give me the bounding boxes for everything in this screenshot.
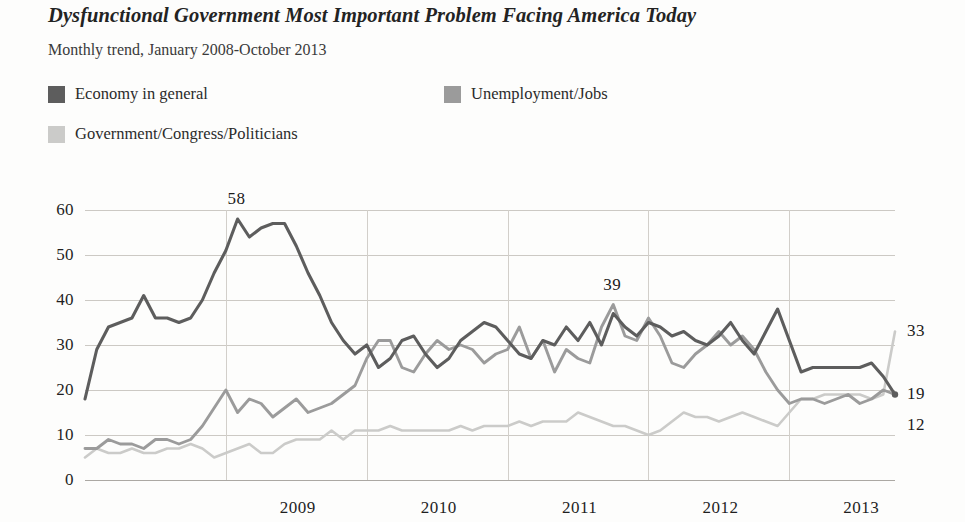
data-label: 39 <box>603 275 621 295</box>
legend-label-government: Government/Congress/Politicians <box>75 124 298 144</box>
x-axis-tick-label: 2010 <box>421 498 457 518</box>
legend-label-economy: Economy in general <box>75 84 208 104</box>
chart-subtitle: Monthly trend, January 2008-October 2013 <box>48 41 327 59</box>
legend-swatch-economy-icon <box>48 86 65 103</box>
y-axis-tick-label: 60 <box>56 200 74 220</box>
y-axis-tick-label: 40 <box>56 290 74 310</box>
x-axis-tick-label: 2011 <box>562 498 597 518</box>
data-label: 58 <box>228 189 246 209</box>
legend-item-economy[interactable]: Economy in general <box>48 84 208 104</box>
series-lines <box>85 210 895 480</box>
data-label: 19 <box>907 384 925 404</box>
y-axis-tick-label: 20 <box>56 380 74 400</box>
y-axis-tick-label: 30 <box>56 335 74 355</box>
gridline-horizontal <box>85 480 895 481</box>
y-axis-tick-label: 10 <box>56 425 74 445</box>
series-line <box>85 332 895 458</box>
series-line <box>85 219 895 399</box>
legend-item-unemployment[interactable]: Unemployment/Jobs <box>444 84 608 104</box>
page-title: Dysfunctional Government Most Important … <box>48 4 696 27</box>
y-axis-tick-label: 50 <box>56 245 74 265</box>
legend-label-unemployment: Unemployment/Jobs <box>471 84 608 104</box>
legend-swatch-unemployment-icon <box>444 86 461 103</box>
chart-container: Dysfunctional Government Most Important … <box>0 0 965 522</box>
x-axis-tick-label: 2013 <box>843 498 879 518</box>
plot-area: 0102030405060 20092010201120122013 58393… <box>85 210 895 480</box>
x-axis-tick-label: 2012 <box>702 498 738 518</box>
data-label: 12 <box>907 415 925 435</box>
legend-item-government[interactable]: Government/Congress/Politicians <box>48 124 298 144</box>
data-label: 33 <box>907 321 925 341</box>
legend-swatch-government-icon <box>48 126 65 143</box>
series-end-marker <box>892 391 898 397</box>
y-axis-tick-label: 0 <box>65 470 74 490</box>
x-axis-tick-label: 2009 <box>280 498 316 518</box>
